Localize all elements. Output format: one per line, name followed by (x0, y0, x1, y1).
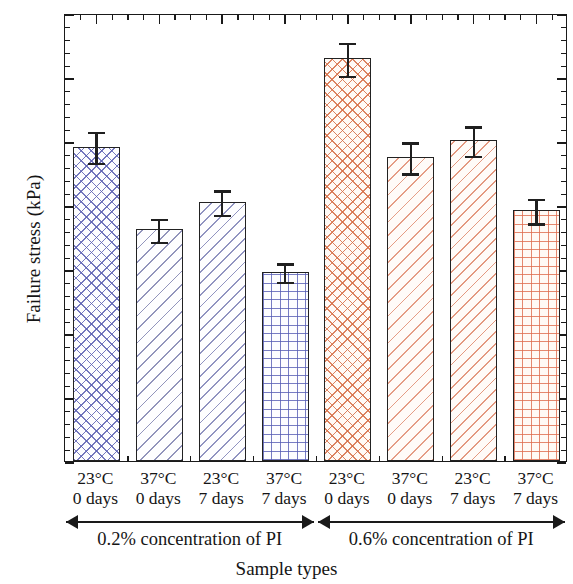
x-tick-label-7: 23°C7 days (450, 468, 495, 508)
x-top-minor-tick (394, 15, 395, 20)
y-minor-tick (65, 386, 70, 387)
error-bar-stem (473, 126, 475, 158)
y-right-minor-tick (561, 27, 566, 28)
y-right-minor-tick (561, 53, 566, 54)
error-bar-stem (158, 219, 160, 245)
group-arrow-line (318, 521, 566, 523)
y-minor-tick (65, 424, 70, 425)
x-tick-label-duration: 7 days (261, 488, 306, 508)
y-right-major-tick (557, 14, 566, 16)
y-right-minor-tick (561, 322, 566, 323)
error-bar-cap-top (214, 190, 231, 192)
error-bar-cap-bottom (151, 242, 168, 244)
y-minor-tick (65, 117, 70, 118)
x-minor-tick (442, 456, 443, 461)
x-top-minor-tick (143, 15, 144, 20)
x-minor-tick (316, 456, 317, 461)
y-minor-tick (65, 104, 70, 105)
y-right-minor-tick (561, 258, 566, 259)
x-minor-tick (504, 456, 505, 461)
y-right-minor-tick (561, 181, 566, 182)
x-top-major-tick (221, 15, 223, 24)
error-bar-3 (212, 190, 232, 217)
x-top-minor-tick (504, 15, 505, 20)
y-right-minor-tick (561, 283, 566, 284)
x-top-major-tick (284, 15, 286, 24)
y-right-minor-tick (561, 360, 566, 361)
failure-stress-bar-chart: Failure stress (kPa) 0.010203040506070 2… (0, 0, 573, 584)
group-label-2: 0.6% concentration of PI (349, 529, 534, 550)
x-tick-label-temperature: 23°C (329, 468, 365, 488)
error-bar-2 (149, 219, 169, 245)
bar-8 (513, 210, 560, 461)
x-top-minor-tick (112, 15, 113, 20)
y-right-minor-tick (561, 194, 566, 195)
error-bar-cap-bottom (465, 156, 482, 158)
y-right-major-tick (557, 78, 566, 80)
x-tick-label-6: 37°C0 days (387, 468, 432, 508)
y-minor-tick (65, 450, 70, 451)
y-right-minor-tick (561, 66, 566, 67)
x-minor-tick (253, 456, 254, 461)
error-bar-7 (464, 126, 484, 158)
bar-2 (136, 229, 183, 461)
y-minor-tick (65, 181, 70, 182)
y-minor-tick (65, 232, 70, 233)
error-bar-stem (95, 132, 97, 165)
x-top-minor-tick (206, 15, 207, 20)
y-right-minor-tick (561, 373, 566, 374)
bar-4 (262, 272, 309, 461)
y-right-minor-tick (561, 424, 566, 425)
error-bar-cap-top (465, 126, 482, 128)
x-top-minor-tick (190, 15, 191, 20)
y-minor-tick (65, 168, 70, 169)
y-right-minor-tick (561, 155, 566, 156)
x-top-minor-tick (80, 15, 81, 20)
error-bar-cap-bottom (339, 76, 356, 78)
x-tick-label-temperature: 23°C (203, 468, 239, 488)
x-top-major-tick (159, 15, 161, 24)
y-right-minor-tick (561, 450, 566, 451)
x-top-major-tick (96, 15, 98, 24)
y-axis-title: Failure stress (kPa) (23, 119, 45, 379)
y-minor-tick (65, 360, 70, 361)
error-bar-stem (347, 43, 349, 79)
x-top-minor-tick (237, 15, 238, 20)
y-minor-tick (65, 245, 70, 246)
error-bar-cap-bottom (214, 215, 231, 217)
y-minor-tick (65, 194, 70, 195)
x-axis-title: Sample types (0, 558, 573, 580)
y-minor-tick (65, 322, 70, 323)
x-top-minor-tick (253, 15, 254, 20)
y-minor-tick (65, 437, 70, 438)
y-minor-tick (65, 283, 70, 284)
x-tick-label-duration: 7 days (199, 488, 244, 508)
y-right-minor-tick (561, 245, 566, 246)
y-right-minor-tick (561, 104, 566, 105)
x-top-minor-tick (174, 15, 175, 20)
y-major-tick (65, 78, 74, 80)
x-top-minor-tick (363, 15, 364, 20)
error-bar-4 (275, 263, 295, 283)
plot-area (64, 14, 567, 462)
group-arrow-head-left (66, 515, 78, 529)
x-tick-label-3: 23°C7 days (199, 468, 244, 508)
error-bar-cap-top (339, 43, 356, 45)
y-minor-tick (65, 53, 70, 54)
error-bar-5 (338, 43, 358, 79)
y-minor-tick (65, 219, 70, 220)
x-tick-label-8: 37°C7 days (513, 468, 558, 508)
x-top-minor-tick (269, 15, 270, 20)
x-top-minor-tick (426, 15, 427, 20)
y-right-major-tick (557, 206, 566, 208)
y-minor-tick (65, 309, 70, 310)
bar-5 (324, 58, 371, 461)
x-tick-label-temperature: 37°C (517, 468, 553, 488)
x-top-minor-tick (442, 15, 443, 20)
x-top-major-tick (536, 15, 538, 24)
y-right-major-tick (557, 142, 566, 144)
error-bar-6 (401, 142, 421, 175)
x-top-major-tick (410, 15, 412, 24)
x-top-minor-tick (316, 15, 317, 20)
y-right-minor-tick (561, 411, 566, 412)
